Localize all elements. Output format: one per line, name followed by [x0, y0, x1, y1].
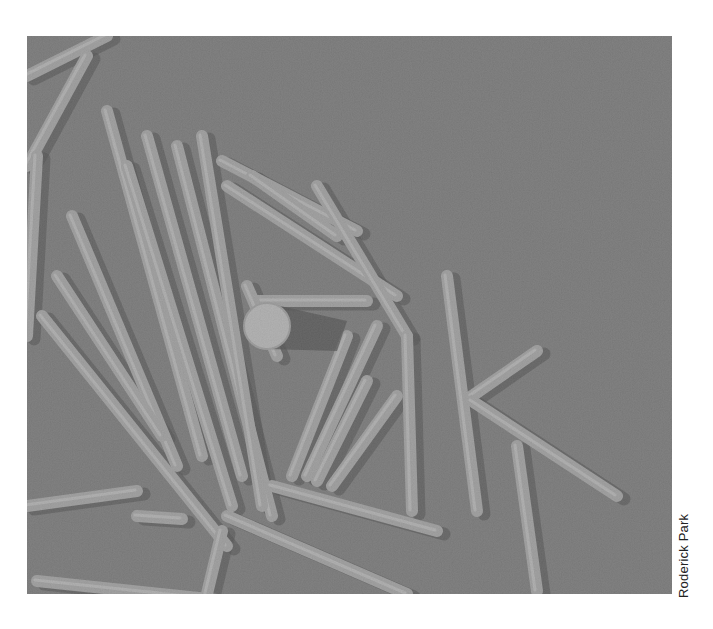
- photo-credit: Roderick Park: [676, 514, 691, 598]
- micrograph-rods: [27, 36, 672, 594]
- micrograph-photo: [27, 36, 672, 594]
